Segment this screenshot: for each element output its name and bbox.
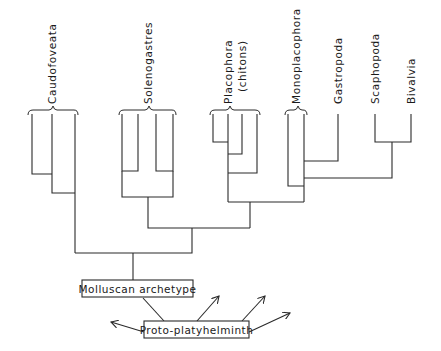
- taxon-label-solenogastres: Solenogastres: [142, 22, 154, 104]
- brace-placophora: [210, 106, 260, 115]
- molluscan-archetype-box: Molluscan archetype: [78, 280, 196, 297]
- archetype-connector: [143, 298, 164, 321]
- svg-text:Solenogastres: Solenogastres: [142, 22, 154, 104]
- svg-text:Molluscan archetype: Molluscan archetype: [78, 283, 196, 295]
- svg-text:Caudofoveata: Caudofoveata: [46, 24, 58, 105]
- clade-root: [75, 228, 192, 280]
- taxon-label-scaphopoda: Scaphopoda: [369, 33, 381, 104]
- mollusc-phylogeny-diagram: Caudofoveata Solenogastres Placophora (c…: [0, 0, 441, 351]
- taxon-label-gastropoda: Gastropoda: [332, 37, 344, 104]
- taxon-label-bivalvia: Bivalvia: [405, 58, 417, 104]
- taxon-label-placophora: Placophora (chitons): [222, 40, 248, 104]
- svg-text:Gastropoda: Gastropoda: [332, 37, 344, 104]
- brace-solenogastres: [119, 106, 176, 115]
- svg-text:Scaphopoda: Scaphopoda: [369, 33, 381, 104]
- svg-text:(chitons): (chitons): [236, 40, 248, 92]
- arrow-icon: [242, 296, 265, 321]
- clade-caudofoveata: [32, 114, 75, 253]
- clade-placophora: [213, 114, 257, 202]
- taxon-label-monoplacophora: Monoplacophora: [290, 8, 302, 104]
- svg-text:Bivalvia: Bivalvia: [405, 58, 417, 104]
- clade-solenogastres: [122, 114, 250, 228]
- taxon-label-caudofoveata: Caudofoveata: [46, 24, 58, 105]
- arrow-icon: [197, 296, 219, 321]
- clade-conchifera: [228, 114, 411, 228]
- proto-platyhelminth-box: Proto-platyhelminth: [140, 321, 254, 338]
- brace-caudofoveata: [28, 106, 78, 115]
- brace-monoplacophora: [285, 106, 307, 115]
- svg-text:Proto-platyhelminth: Proto-platyhelminth: [140, 324, 254, 336]
- svg-text:Monoplacophora: Monoplacophora: [290, 8, 302, 104]
- arrow-icon: [249, 313, 290, 332]
- svg-text:Placophora: Placophora: [222, 40, 234, 104]
